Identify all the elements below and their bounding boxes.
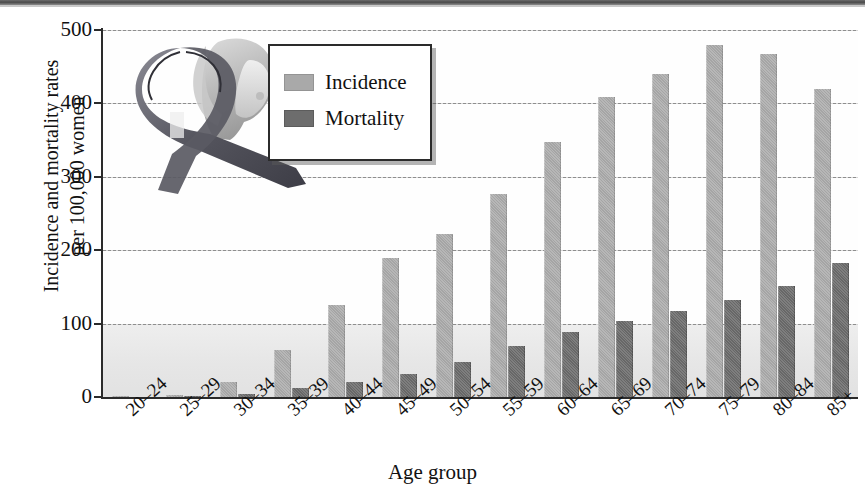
y-tick-label-100: 100: [0, 313, 106, 334]
page-top-rule-secondary: [0, 5, 865, 7]
legend-label-incidence: Incidence: [325, 72, 407, 93]
gridline-200: [103, 250, 858, 251]
y-tick-label-300: 300: [0, 166, 106, 187]
chart-legend: Incidence Mortality: [268, 44, 432, 161]
x-axis-title: Age group: [0, 460, 865, 485]
y-tick-label-500: 500: [0, 19, 106, 40]
gridline-300: [103, 177, 858, 178]
bar-incidence-40-44: [328, 305, 345, 397]
legend-swatch-mortality: [284, 110, 314, 127]
gridline-100: [103, 324, 858, 325]
gridline-500: [103, 30, 858, 31]
bar-mortality-85+: [832, 263, 849, 397]
legend-swatch-incidence: [284, 74, 314, 91]
bar-incidence-85+: [814, 89, 831, 397]
bar-incidence-70-74: [652, 74, 669, 397]
legend-item-mortality: Mortality: [284, 108, 404, 129]
plot-area: [103, 30, 858, 397]
gridline-400: [103, 103, 858, 104]
bar-incidence-65-69: [598, 97, 615, 397]
y-tick-label-200: 200: [0, 239, 106, 260]
bar-incidence-80-84: [760, 54, 777, 398]
bar-incidence-55-59: [490, 194, 507, 397]
bar-incidence-60-64: [544, 142, 561, 397]
chart-figure: Incidence and mortality rates per 100,00…: [0, 0, 865, 490]
y-tick-label-400: 400: [0, 92, 106, 113]
bar-incidence-45-49: [382, 258, 399, 397]
bar-incidence-75-79: [706, 45, 723, 397]
bar-incidence-35-39: [274, 350, 291, 397]
bar-incidence-50-54: [436, 234, 453, 397]
legend-label-mortality: Mortality: [325, 108, 404, 129]
bar-mortality-80-84: [778, 286, 795, 397]
y-tick-label-0: 0: [0, 386, 106, 407]
legend-item-incidence: Incidence: [284, 72, 407, 93]
